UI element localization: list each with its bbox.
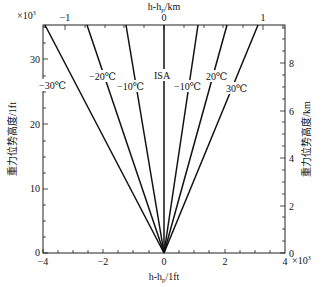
left-axis-ticks: [43, 27, 48, 253]
bottom-tick-labels: −4 −2 0 2 4: [38, 256, 288, 267]
bottom-multiplier: ×103: [292, 255, 311, 266]
right-tick-labels: 0 2 4 6 8: [289, 58, 294, 259]
bottom-axis-ticks: [43, 249, 270, 253]
line-minus10-right: [164, 25, 198, 253]
svg-text:−1: −1: [60, 12, 71, 23]
label-20: 20℃: [206, 71, 227, 82]
label-30: 30℃: [226, 83, 247, 94]
svg-text:30: 30: [30, 54, 40, 65]
right-axis-ticks: [280, 28, 285, 253]
line-minus10-left: [126, 25, 164, 253]
bottom-axis-title: h-hp/1ft: [149, 271, 180, 284]
left-axis-title: 重力位势高度/1ft: [6, 102, 18, 176]
line-30: [164, 25, 258, 253]
label-minus10-left: −10℃: [117, 81, 144, 92]
svg-text:1: 1: [261, 12, 266, 23]
svg-text:4: 4: [289, 153, 294, 164]
svg-text:4: 4: [283, 256, 288, 267]
left-multiplier: ×103: [17, 10, 36, 21]
svg-text:10: 10: [30, 183, 40, 194]
line-minus20: [87, 25, 164, 253]
temperature-lines: [45, 25, 258, 253]
svg-text:0: 0: [162, 256, 167, 267]
svg-text:2: 2: [223, 256, 228, 267]
svg-text:20: 20: [30, 119, 40, 130]
right-axis-title: 重力位势高度/km: [300, 101, 312, 177]
svg-text:0: 0: [289, 248, 294, 259]
svg-text:8: 8: [289, 58, 294, 69]
label-isa: ISA: [154, 70, 171, 81]
svg-text:−2: −2: [98, 256, 109, 267]
label-minus30: −30℃: [39, 80, 66, 91]
label-minus10-right: −10℃: [174, 81, 201, 92]
line-20: [164, 25, 227, 253]
svg-text:2: 2: [289, 201, 294, 212]
top-axis-title: h-hp/km: [148, 1, 181, 14]
line-minus30: [45, 25, 164, 253]
svg-text:6: 6: [289, 106, 294, 117]
chart-canvas: −30℃ −20℃ −10℃ ISA −10℃ 20℃ 30℃ −4 −2 0 …: [0, 0, 322, 287]
svg-text:0: 0: [35, 247, 40, 258]
label-minus20: −20℃: [89, 71, 116, 82]
